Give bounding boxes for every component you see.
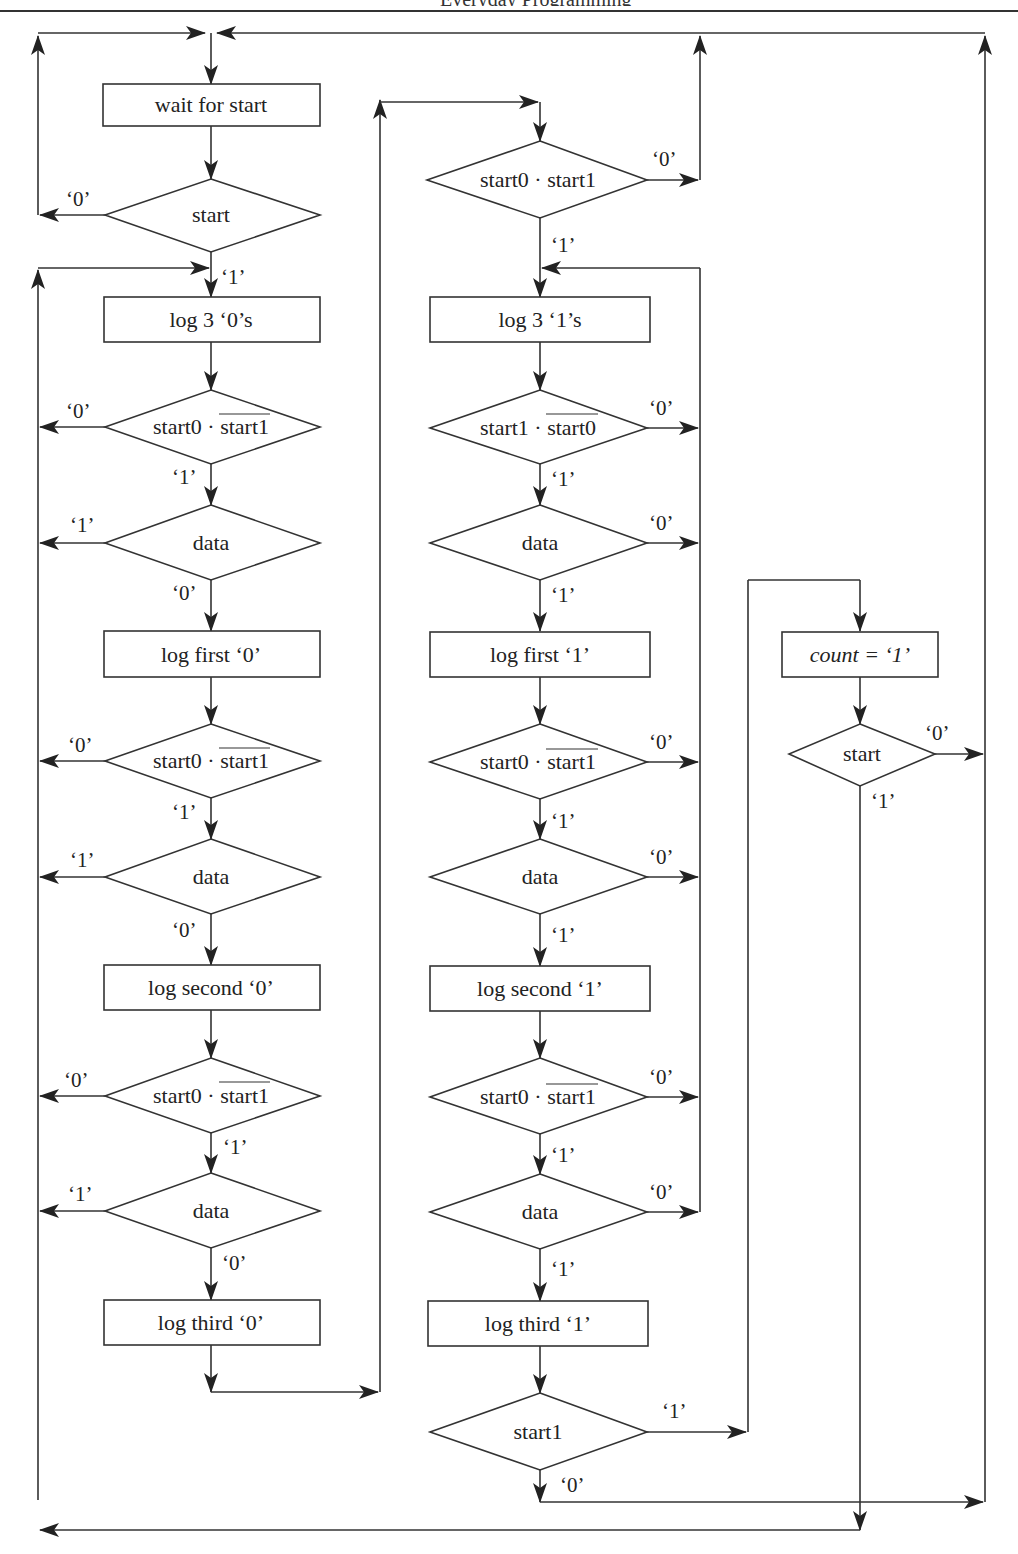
svg-text:‘0’: ‘0’ (649, 511, 674, 535)
svg-text:‘0’: ‘0’ (222, 1251, 247, 1275)
svg-text:log second ‘0’: log second ‘0’ (148, 975, 274, 1000)
decision-start0-and-not-start1-c: start0 · start1 (105, 1058, 320, 1133)
svg-text:data: data (193, 1198, 230, 1223)
svg-text:‘0’: ‘0’ (66, 187, 91, 211)
svg-text:‘1’: ‘1’ (223, 1135, 248, 1159)
svg-text:‘0’: ‘0’ (649, 1180, 674, 1204)
decision-start0-and-not-start1-d: start0 · start1 (430, 724, 647, 799)
process-log-first-one: log first ‘1’ (430, 632, 650, 677)
flowchart: wait for start start log 3 ‘0’s start0 ·… (0, 0, 1018, 1554)
svg-text:‘1’: ‘1’ (551, 233, 576, 257)
branch-labels: ‘0’ ‘1’ ‘0’ ‘1’ ‘1’ ‘0’ ‘0’ ‘1’ ‘1’ ‘0’ … (64, 147, 950, 1497)
decision-start1-and-not-start0: start1 · start0 (430, 390, 647, 464)
decision-data-c: data (105, 1173, 320, 1248)
svg-text:log third ‘0’: log third ‘0’ (158, 1310, 264, 1335)
svg-text:‘1’: ‘1’ (662, 1399, 687, 1423)
decision-start0-and-not-start1-a: start0 · start1 (105, 390, 320, 464)
svg-text:‘0’: ‘0’ (66, 399, 91, 423)
svg-text:‘1’: ‘1’ (172, 800, 197, 824)
process-log-3-ones: log 3 ‘1’s (430, 297, 650, 342)
svg-text:‘0’: ‘0’ (68, 733, 93, 757)
svg-text:start0 · start1: start0 · start1 (153, 414, 269, 439)
process-log-second-one: log second ‘1’ (430, 966, 650, 1011)
svg-text:start0 · start1: start0 · start1 (153, 748, 269, 773)
svg-text:‘1’: ‘1’ (68, 1182, 93, 1206)
svg-text:start0 · start1: start0 · start1 (480, 1084, 596, 1109)
svg-text:‘0’: ‘0’ (649, 396, 674, 420)
svg-text:log 3 ‘1’s: log 3 ‘1’s (498, 307, 581, 332)
decision-start1: start1 (430, 1393, 647, 1470)
svg-text:count = ‘1’: count = ‘1’ (810, 642, 910, 667)
svg-text:‘0’: ‘0’ (649, 730, 674, 754)
decision-data-b: data (105, 839, 320, 914)
decision-start0-and-not-start1-b: start0 · start1 (105, 724, 320, 798)
svg-text:‘1’: ‘1’ (172, 465, 197, 489)
svg-text:‘0’: ‘0’ (64, 1068, 89, 1092)
svg-text:‘1’: ‘1’ (551, 467, 576, 491)
decision-start: start (105, 179, 320, 252)
svg-text:‘1’: ‘1’ (221, 265, 246, 289)
decision-start-2: start (789, 724, 935, 786)
process-log-first-zero: log first ‘0’ (104, 631, 320, 677)
svg-text:‘1’: ‘1’ (551, 583, 576, 607)
svg-text:data: data (193, 864, 230, 889)
svg-text:‘0’: ‘0’ (652, 147, 677, 171)
svg-text:‘0’: ‘0’ (649, 1065, 674, 1089)
process-log-third-zero: log third ‘0’ (104, 1300, 320, 1345)
svg-text:start: start (192, 202, 230, 227)
svg-text:start0 · start1: start0 · start1 (480, 167, 596, 192)
svg-text:data: data (522, 1199, 559, 1224)
svg-text:‘0’: ‘0’ (649, 845, 674, 869)
svg-text:‘0’: ‘0’ (925, 721, 950, 745)
svg-text:‘0’: ‘0’ (172, 918, 197, 942)
svg-text:‘1’: ‘1’ (551, 809, 576, 833)
decision-data-d: data (430, 505, 647, 580)
decision-data-a: data (105, 505, 320, 580)
svg-text:start0 · start1: start0 · start1 (153, 1083, 269, 1108)
svg-text:‘1’: ‘1’ (871, 789, 896, 813)
svg-text:‘1’: ‘1’ (551, 923, 576, 947)
svg-text:log first ‘0’: log first ‘0’ (161, 642, 261, 667)
svg-text:start: start (843, 741, 881, 766)
svg-text:log second ‘1’: log second ‘1’ (477, 976, 603, 1001)
svg-text:data: data (522, 530, 559, 555)
process-wait-for-start: wait for start (103, 84, 320, 126)
svg-text:log 3 ‘0’s: log 3 ‘0’s (169, 307, 252, 332)
svg-text:log third ‘1’: log third ‘1’ (485, 1311, 591, 1336)
svg-text:log first ‘1’: log first ‘1’ (490, 642, 590, 667)
svg-text:‘0’: ‘0’ (172, 581, 197, 605)
svg-text:‘1’: ‘1’ (70, 513, 95, 537)
svg-text:‘0’: ‘0’ (560, 1473, 585, 1497)
decision-start0-and-not-start1-e: start0 · start1 (430, 1058, 647, 1134)
process-log-third-one: log third ‘1’ (428, 1301, 648, 1346)
svg-text:data: data (522, 864, 559, 889)
svg-text:‘1’: ‘1’ (551, 1143, 576, 1167)
process-log-3-zeros: log 3 ‘0’s (104, 297, 320, 342)
svg-text:data: data (193, 530, 230, 555)
svg-text:wait for start: wait for start (155, 92, 267, 117)
process-log-second-zero: log second ‘0’ (104, 965, 320, 1010)
decision-data-e: data (430, 839, 647, 914)
svg-text:start1 · start0: start1 · start0 (480, 415, 596, 440)
svg-text:‘1’: ‘1’ (70, 848, 95, 872)
svg-text:start1: start1 (514, 1419, 563, 1444)
process-count-equals-one: count = ‘1’ (782, 632, 938, 677)
svg-text:‘1’: ‘1’ (551, 1257, 576, 1281)
svg-text:start0 · start1: start0 · start1 (480, 749, 596, 774)
decision-data-f: data (430, 1174, 647, 1249)
decision-start0-and-start1: start0 · start1 (427, 141, 647, 218)
